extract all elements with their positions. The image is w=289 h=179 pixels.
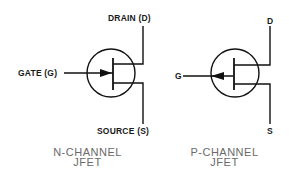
p-channel-source-label: S xyxy=(267,126,273,136)
n-channel-drain-lead xyxy=(113,26,143,64)
n-channel-symbol xyxy=(64,26,143,124)
n-channel-drain-label: DRAIN (D) xyxy=(108,13,151,23)
p-channel-gate-label: G xyxy=(175,71,182,81)
n-channel-arrow-icon xyxy=(100,69,112,77)
n-channel-source-label: SOURCE (S) xyxy=(97,126,149,136)
p-channel-caption-line2: JFET xyxy=(182,157,267,167)
n-channel-caption: N-CHANNEL JFET xyxy=(45,147,130,167)
p-channel-caption: P-CHANNEL JFET xyxy=(182,147,267,167)
n-channel-gate-label: GATE (G) xyxy=(18,68,57,78)
p-channel-symbol xyxy=(183,26,270,124)
p-channel-envelope-circle xyxy=(211,49,259,97)
n-channel-caption-line2: JFET xyxy=(45,157,130,167)
p-channel-drain-label: D xyxy=(267,16,273,26)
p-channel-drain-lead xyxy=(234,26,270,65)
p-channel-arrow-icon xyxy=(211,72,224,80)
